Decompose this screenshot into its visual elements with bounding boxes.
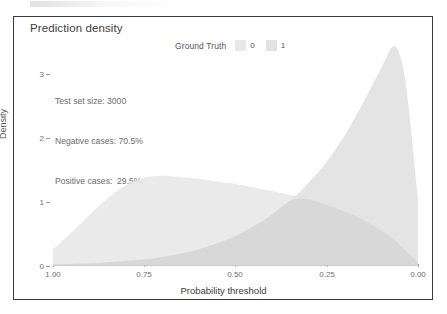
x-tick-4: 0.25 xyxy=(319,270,335,279)
screenshot-root: Prediction density Ground Truth 0 1 Test… xyxy=(0,0,447,314)
x-tick-3: 0.50 xyxy=(227,270,243,279)
x-tick-1: 1.00 xyxy=(45,270,61,279)
x-axis-label: Probability threshold xyxy=(0,285,447,296)
scan-artifact xyxy=(30,1,180,7)
y-tick-0: 0 xyxy=(26,262,44,271)
y-tick-2: 2 xyxy=(26,134,44,143)
x-tick-2: 0.75 xyxy=(136,270,152,279)
y-axis-label: Density xyxy=(0,109,8,139)
density-plot-area xyxy=(53,33,418,266)
density-svg xyxy=(53,33,418,266)
x-tick-5: 0.00 xyxy=(410,270,426,279)
y-tick-1: 1 xyxy=(26,198,44,207)
y-tick-3: 3 xyxy=(26,70,44,79)
x-tickmark-5 xyxy=(418,264,419,267)
